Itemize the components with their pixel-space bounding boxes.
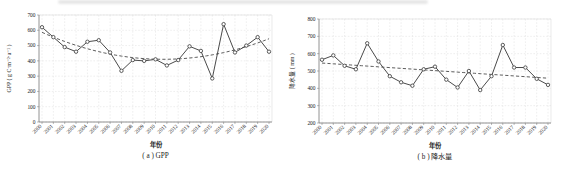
data-point-marker [467,69,470,72]
data-point-marker [399,81,402,84]
x-tick-label: 2005 [367,124,379,136]
x-tick-label: 2011 [156,123,168,135]
x-tick-label: 2020 [258,123,270,135]
data-point-marker [366,42,369,45]
x-tick-label: 2007 [110,123,122,135]
data-point-marker [256,35,259,38]
data-point-marker [245,44,248,47]
x-tick-label: 2019 [526,124,538,136]
x-tick-labels: 2000200120022003200420052006200720082009… [31,123,270,135]
data-point-marker [233,51,236,54]
x-tick-label: 2018 [514,124,526,136]
figure: 0100200300400500600700200020012002200320… [0,0,568,171]
y-tick-label: 800 [307,16,315,22]
x-tick-label: 2015 [480,124,492,136]
chart-caption: ( a ) GPP [142,152,169,160]
data-point-marker [211,77,214,80]
x-tick-label: 2004 [356,124,368,136]
y-tick-label: 200 [27,88,35,94]
x-tick-label: 2012 [446,124,458,136]
x-tick-label: 2018 [235,123,247,135]
x-tick-label: 2009 [413,124,425,136]
data-point-marker [142,59,145,62]
y-axis-label: GPP ( g C·m⁻²·a⁻¹ ) [6,45,13,93]
data-point-marker [74,50,77,53]
data-point-marker [40,26,43,29]
x-tick-label: 2004 [76,123,88,135]
x-tick-label: 2014 [469,124,481,136]
x-tick-label: 2002 [54,123,66,135]
data-point-marker [445,78,448,81]
x-tick-label: 2008 [401,124,413,136]
y-tick-label: 500 [27,42,35,48]
x-tick-label: 2020 [537,124,549,136]
data-point-marker [388,75,391,78]
y-tick-label: 300 [307,103,315,109]
data-point-marker [377,60,380,63]
x-tick-label: 2011 [435,124,447,136]
data-point-marker [456,86,459,89]
y-tick-label: 600 [307,51,315,57]
axis-ticks [37,15,269,124]
data-point-marker [320,58,323,61]
data-point-marker [490,75,493,78]
data-point-marker [422,68,425,71]
y-tick-labels: 200300400500600700800 [307,16,315,126]
y-tick-label: 300 [27,73,35,79]
y-tick-label: 700 [27,12,35,18]
y-tick-label: 400 [27,58,35,64]
x-tick-label: 2006 [379,124,391,136]
data-point-marker [199,49,202,52]
x-tick-label: 2019 [246,123,258,135]
x-tick-labels: 2000200120022003200420052006200720082009… [311,124,549,136]
x-tick-label: 2006 [99,123,111,135]
data-point-marker [131,58,134,61]
x-axis-label: 年份 [150,140,163,149]
x-tick-label: 2010 [424,124,436,136]
x-tick-label: 2017 [503,124,515,136]
data-point-marker [332,54,335,57]
x-tick-label: 2007 [390,124,402,136]
data-point-marker [267,50,270,53]
y-tick-label: 100 [27,104,35,110]
y-tick-labels: 0100200300400500600700 [27,12,35,125]
y-axis-label: 降水量 ( mm ) [288,53,296,89]
data-point-marker [524,66,527,69]
chart-panel-b: 2003004005006007008002000200120022003200… [284,0,568,171]
x-tick-label: 2012 [167,123,179,135]
data-point-marker [188,45,191,48]
x-tick-label: 2017 [224,123,236,135]
data-point-marker [512,66,515,69]
x-tick-label: 2013 [458,124,470,136]
data-point-marker [120,69,123,72]
axis-ticks [317,19,548,125]
y-tick-label: 700 [307,33,315,39]
precipitation-chart-svg: 2003004005006007008002000200120022003200… [284,0,568,171]
data-point-marker [433,65,436,68]
x-tick-label: 2002 [333,124,345,136]
x-tick-label: 2010 [144,123,156,135]
data-point-marker [501,43,504,46]
x-tick-label: 2003 [65,123,77,135]
x-tick-label: 2001 [42,123,54,135]
y-tick-label: 0 [33,119,36,125]
gpp-chart-svg: 0100200300400500600700200020012002200320… [0,0,284,171]
data-point-marker [108,51,111,54]
data-point-marker [546,83,549,86]
x-tick-label: 2014 [190,123,202,135]
data-point-marker [343,64,346,67]
y-tick-label: 600 [27,27,35,33]
data-point-marker [354,68,357,71]
x-tick-label: 2016 [492,124,504,136]
x-tick-label: 2001 [322,124,334,136]
x-tick-label: 2008 [122,123,134,135]
data-point-marker [222,22,225,25]
chart-panel-a: 0100200300400500600700200020012002200320… [0,0,284,171]
y-tick-label: 200 [307,120,315,126]
x-tick-label: 2005 [88,123,100,135]
data-point-marker [86,40,89,43]
data-point-marker [177,58,180,61]
data-point-marker [52,35,55,38]
grid-lines [319,19,551,123]
data-point-marker [411,84,414,87]
